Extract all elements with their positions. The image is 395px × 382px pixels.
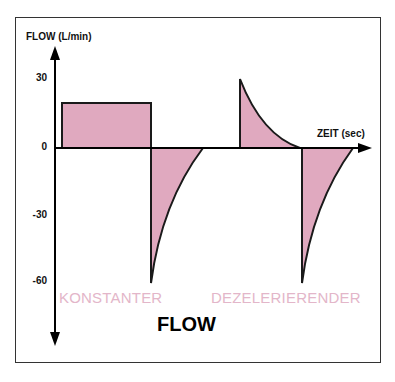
constant-flow-label: KONSTANTER <box>59 289 162 306</box>
x-axis-label: ZEIT (sec) <box>317 128 365 139</box>
decelerating-expiratory-waveform <box>302 148 353 283</box>
y-tick-minus-60: -60 <box>17 275 47 286</box>
y-axis-up-arrow-icon <box>50 46 60 60</box>
y-tick-0: 0 <box>17 141 47 152</box>
y-tick-30: 30 <box>17 72 47 83</box>
diagram-title: FLOW <box>157 313 216 336</box>
constant-inspiratory-waveform <box>62 103 151 148</box>
y-axis-down-arrow-icon <box>50 332 60 346</box>
decelerating-flow-label: DEZELERIERENDER <box>211 289 361 306</box>
y-tick-minus-30: -30 <box>17 209 47 220</box>
decelerating-inspiratory-waveform <box>240 79 300 148</box>
constant-expiratory-waveform <box>151 148 203 283</box>
y-axis-label: FLOW (L/min) <box>26 31 92 42</box>
x-axis-arrow-icon <box>358 143 372 153</box>
